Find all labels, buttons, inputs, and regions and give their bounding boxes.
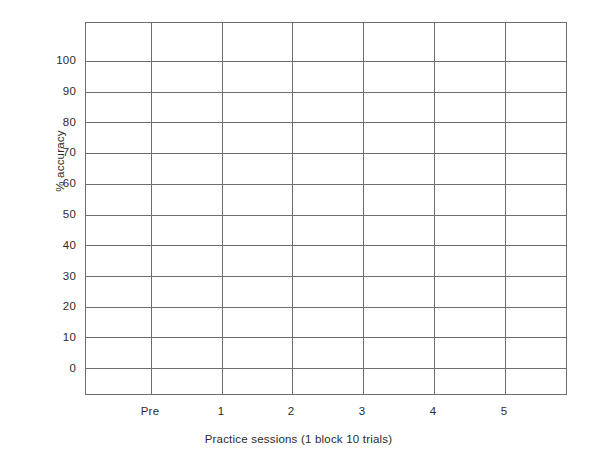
plot-area — [85, 22, 567, 395]
y-tick-label-60: 60 — [63, 178, 76, 190]
x-axis-title: Practice sessions (1 block 10 trials) — [0, 433, 597, 445]
y-tick-label-70: 70 — [63, 147, 76, 159]
y-tick-label-30: 30 — [63, 271, 76, 283]
y-tick-label-90: 90 — [63, 86, 76, 98]
x-tick-label-3: 3 — [359, 405, 366, 417]
gridline-x-3 — [363, 23, 364, 394]
gridline-x-2 — [292, 23, 293, 394]
gridline-x-1 — [222, 23, 223, 394]
gridline-x-5 — [505, 23, 506, 394]
y-tick-label-100: 100 — [56, 55, 76, 67]
gridline-y-0 — [86, 368, 566, 369]
x-tick-label-2: 2 — [288, 405, 295, 417]
gridline-x-4 — [434, 23, 435, 394]
x-tick-label-1: 1 — [218, 405, 225, 417]
gridline-y-50 — [86, 215, 566, 216]
gridline-y-30 — [86, 276, 566, 277]
x-tick-label-5: 5 — [501, 405, 508, 417]
x-tick-label-4: 4 — [430, 405, 437, 417]
y-tick-label-40: 40 — [63, 240, 76, 252]
y-tick-label-20: 20 — [63, 301, 76, 313]
gridline-y-60 — [86, 184, 566, 185]
y-tick-label-0: 0 — [69, 363, 76, 375]
gridline-y-40 — [86, 245, 566, 246]
y-tick-label-80: 80 — [63, 117, 76, 129]
y-tick-label-10: 10 — [63, 332, 76, 344]
chart-figure: % accuracy 100 90 80 70 60 50 40 30 20 1… — [0, 0, 597, 459]
gridline-y-100 — [86, 61, 566, 62]
gridline-y-80 — [86, 122, 566, 123]
x-tick-label-pre: Pre — [141, 405, 160, 417]
y-tick-label-50: 50 — [63, 209, 76, 221]
gridline-x-pre — [151, 23, 152, 394]
gridline-y-70 — [86, 153, 566, 154]
gridline-y-10 — [86, 337, 566, 338]
gridline-y-90 — [86, 92, 566, 93]
gridline-y-20 — [86, 307, 566, 308]
